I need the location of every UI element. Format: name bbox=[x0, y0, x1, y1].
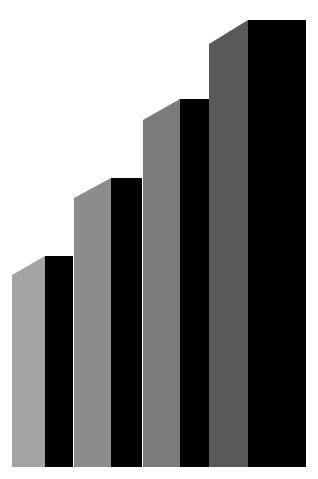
bar-front-face bbox=[111, 178, 142, 467]
bar-group bbox=[12, 20, 306, 467]
bar-side-face bbox=[74, 178, 111, 467]
bar-2 bbox=[74, 178, 142, 467]
bar-side-face bbox=[12, 256, 45, 467]
bar-1 bbox=[12, 256, 73, 467]
stepped-bar-chart bbox=[0, 0, 318, 479]
bar-side-face bbox=[209, 20, 248, 467]
bar-front-face bbox=[45, 256, 73, 467]
bar-side-face bbox=[143, 99, 180, 467]
bar-4 bbox=[209, 20, 306, 467]
bar-3 bbox=[143, 99, 209, 467]
bar-front-face bbox=[180, 99, 209, 467]
bar-front-face bbox=[248, 20, 306, 467]
